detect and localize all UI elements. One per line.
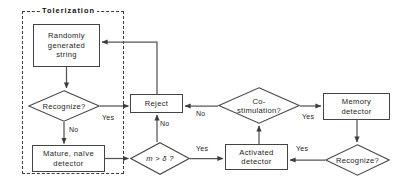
node-label-mature-naive: Mature, naïvedetector — [43, 149, 94, 168]
node-activated-detector: Activateddetector — [225, 144, 288, 170]
node-recognize-right: Recognize? — [325, 144, 390, 176]
node-label-reject: Reject — [145, 99, 169, 108]
edge-label-recognize-left-yes: Yes — [102, 114, 114, 121]
edge-label-m-delta-no: No — [160, 120, 170, 127]
node-m-greater-delta: m > δ ? — [130, 142, 190, 175]
flowchart-canvas: Tolerization — [0, 0, 409, 184]
node-label-random-string: Randomlygeneratedstring — [48, 31, 85, 59]
node-co-stimulation: Co-stimulation? — [218, 87, 300, 124]
edge-label-recognize-left-no: No — [69, 126, 79, 133]
node-random-string: Randomlygeneratedstring — [33, 24, 100, 67]
node-label-co-stimulation: Co-stimulation? — [237, 97, 281, 115]
node-label-recognize-right: Recognize? — [336, 156, 379, 165]
node-reject: Reject — [130, 94, 183, 113]
node-memory-detector: Memorydetector — [323, 93, 390, 120]
node-recognize-left: Recognize? — [28, 90, 100, 122]
edge-label-co-stimulation-yes: Yes — [302, 113, 314, 120]
node-label-recognize-left: Recognize? — [42, 102, 85, 111]
edge-label-co-stimulation-no: No — [196, 110, 206, 117]
node-label-activated-detector: Activateddetector — [239, 148, 273, 167]
node-label-m-greater-delta: m > δ ? — [146, 154, 174, 163]
node-label-memory-detector: Memorydetector — [341, 97, 371, 116]
node-mature-naive: Mature, naïvedetector — [32, 145, 105, 172]
edge-label-recognize-right-yes: Yes — [296, 145, 308, 152]
edge-label-m-delta-yes: Yes — [196, 145, 208, 152]
